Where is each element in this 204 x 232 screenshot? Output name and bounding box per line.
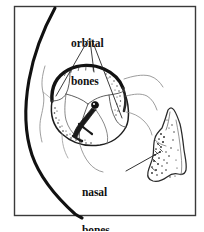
label-nasal-bones-line1: nasal bbox=[82, 186, 110, 199]
label-orbital-bones-line2: bones bbox=[71, 75, 104, 88]
label-orbital-bones: orbital bones bbox=[71, 12, 104, 112]
label-nasal-bones: nasal bones bbox=[82, 161, 110, 231]
label-orbital-bones-line1: orbital bbox=[71, 37, 104, 50]
label-nasal-bones-line2: bones bbox=[82, 224, 110, 232]
anatomical-figure: orbital bones nasal bones bbox=[0, 0, 204, 231]
